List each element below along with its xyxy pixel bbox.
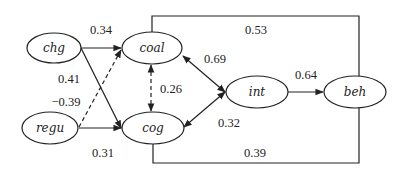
coef-coal-int: 0.69 <box>204 52 226 66</box>
node-label-int: int <box>249 85 266 99</box>
coef-coal-beh: 0.53 <box>245 23 267 37</box>
coef-cog-beh: 0.39 <box>244 146 266 160</box>
coef-cog-int: 0.32 <box>218 116 240 130</box>
coef-chg-coal: 0.34 <box>90 23 113 37</box>
coef-int-beh: 0.64 <box>295 68 318 82</box>
node-label-coal: coal <box>140 41 165 55</box>
coef-coal-cog: 0.26 <box>160 82 182 96</box>
node-int: int <box>226 76 288 108</box>
node-coal: coal <box>122 32 182 64</box>
node-chg: chg <box>27 33 81 63</box>
coef-regu-coal: −0.39 <box>52 95 81 109</box>
node-label-regu: regu <box>36 121 64 135</box>
coef-chg-cog: 0.41 <box>58 72 80 86</box>
node-label-beh: beh <box>344 85 367 99</box>
path-diagram: chg coal regu cog int beh 0.34 0.41 −0.3… <box>0 0 403 176</box>
edge-chg-cog <box>81 48 121 128</box>
node-label-chg: chg <box>43 41 65 55</box>
node-beh: beh <box>324 76 386 108</box>
node-regu: regu <box>22 112 78 144</box>
coef-regu-cog: 0.31 <box>92 146 114 160</box>
node-label-cog: cog <box>142 121 164 135</box>
node-cog: cog <box>122 112 184 144</box>
